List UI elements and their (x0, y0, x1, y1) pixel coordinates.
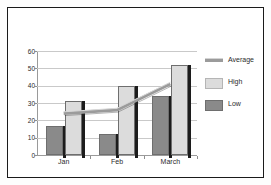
screenshot-frame: 0102030405060 AverageHighLow JanFebMarch (0, 0, 271, 185)
chart-legend: AverageHighLow (205, 52, 267, 118)
y-axis-tick-labels: 0102030405060 (17, 51, 35, 155)
legend-item-average[interactable]: Average (205, 52, 267, 74)
average-line-path (64, 84, 171, 114)
legend-item-high[interactable]: High (205, 74, 267, 96)
y-axis-tick-mark (34, 68, 37, 69)
y-axis-tick-mark (34, 155, 37, 156)
legend-swatch-low (205, 100, 223, 111)
x-axis-tick-mark (90, 156, 91, 159)
y-axis-tick-label: 0 (19, 152, 35, 159)
x-axis-tick-label: March (150, 158, 190, 166)
y-axis-tick-label: 40 (19, 82, 35, 89)
average-line-highlight (64, 82, 171, 112)
x-axis-tick-mark (197, 156, 198, 159)
y-axis-tick-label: 10 (19, 134, 35, 141)
y-axis-tick-mark (34, 120, 37, 121)
combo-bar-line-chart: 0102030405060 AverageHighLow JanFebMarch (0, 0, 271, 185)
legend-label: High (228, 77, 242, 86)
legend-label: Average (228, 55, 254, 64)
y-axis-tick-mark (34, 86, 37, 87)
legend-label: Low (228, 99, 241, 108)
y-axis-tick-label: 50 (19, 65, 35, 72)
average-line-series (37, 51, 197, 155)
x-axis-tick-label: Jan (44, 158, 84, 166)
x-axis-tick-label: Feb (97, 158, 137, 166)
y-axis-tick-label: 30 (19, 100, 35, 107)
plot-area (37, 51, 197, 155)
y-axis-tick-mark (34, 138, 37, 139)
y-axis-tick-mark (34, 103, 37, 104)
legend-item-low[interactable]: Low (205, 96, 267, 118)
y-axis-tick-label: 60 (19, 48, 35, 55)
legend-swatch-high (205, 78, 223, 89)
y-axis-tick-label: 20 (19, 117, 35, 124)
legend-swatch-average (205, 58, 223, 62)
y-axis-tick-mark (34, 51, 37, 52)
x-axis-tick-mark (144, 156, 145, 159)
